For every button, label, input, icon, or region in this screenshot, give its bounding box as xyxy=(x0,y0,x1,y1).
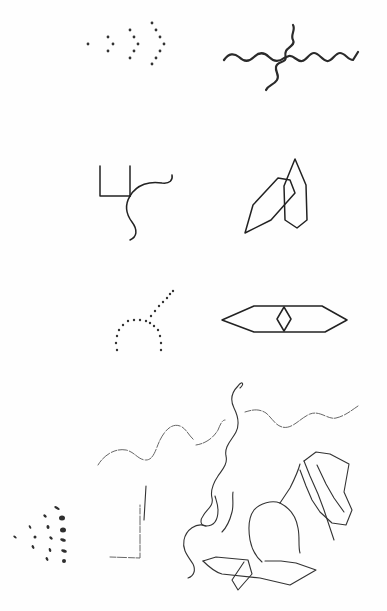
dot-mark xyxy=(159,335,161,337)
dot-mark xyxy=(149,322,151,324)
line-stroke xyxy=(98,425,194,465)
dot-mark xyxy=(129,29,132,32)
dot-mark xyxy=(163,43,166,46)
dash-mark xyxy=(13,535,17,539)
dot-mark xyxy=(137,43,140,46)
dot-mark xyxy=(145,320,147,322)
figure-sheet xyxy=(0,0,387,611)
dash-mark xyxy=(60,538,67,543)
dot-mark xyxy=(155,29,158,32)
crossed-hexagons-figure xyxy=(245,159,307,233)
dot-mark xyxy=(166,297,168,299)
dot-mark xyxy=(133,319,135,321)
dash-mark xyxy=(45,557,49,562)
dash-mark xyxy=(48,548,52,553)
dot-mark xyxy=(162,301,164,303)
line-stroke xyxy=(196,420,225,445)
scribble-scene-figure xyxy=(98,406,358,558)
dot-mark xyxy=(122,324,124,326)
dot-mark xyxy=(133,50,136,53)
dash-mark xyxy=(59,516,65,521)
dot-mark xyxy=(133,36,136,39)
dot-mark xyxy=(154,310,156,312)
dash-mark xyxy=(60,528,66,533)
dot-mark xyxy=(157,329,159,331)
dash-cluster-figure xyxy=(13,505,68,563)
dot-mark xyxy=(155,57,158,60)
dot-mark xyxy=(107,50,110,53)
line-stroke xyxy=(144,486,146,520)
dot-mark xyxy=(116,335,118,337)
dash-mark xyxy=(31,545,35,550)
dash-mark xyxy=(34,536,37,539)
line-stroke xyxy=(300,452,352,525)
line-stroke xyxy=(201,383,243,526)
dot-mark xyxy=(169,293,171,295)
dot-mark xyxy=(112,43,115,46)
line-stroke xyxy=(304,461,334,540)
wavy-cross-figure xyxy=(224,25,358,90)
dot-mark xyxy=(160,342,162,344)
line-stroke xyxy=(184,525,206,578)
dot-mark xyxy=(139,319,141,321)
dot-mark xyxy=(127,320,129,322)
line-stroke xyxy=(280,503,300,553)
line-stroke xyxy=(110,505,140,558)
dot-mark xyxy=(153,325,155,327)
polygon-outline xyxy=(277,307,291,331)
dot-mark xyxy=(151,22,154,25)
figure-canvas xyxy=(0,0,387,611)
polygon-outline xyxy=(245,178,295,233)
line-stroke xyxy=(126,196,136,240)
line-stroke xyxy=(249,502,280,562)
line-stroke xyxy=(224,52,358,61)
dot-mark xyxy=(150,315,152,317)
dot-mark xyxy=(129,57,132,60)
line-stroke xyxy=(317,465,344,512)
dot-mark xyxy=(159,50,162,53)
dash-mark xyxy=(43,514,48,518)
line-stroke xyxy=(222,492,233,532)
line-stroke xyxy=(100,166,130,196)
dot-mark xyxy=(116,349,118,351)
dot-mark xyxy=(160,349,162,351)
line-stroke xyxy=(203,561,316,585)
dot-mark xyxy=(151,63,154,66)
dot-mark xyxy=(107,36,110,39)
dash-mark xyxy=(61,549,68,554)
polygon-outline xyxy=(222,306,347,332)
dash-mark xyxy=(62,559,66,563)
dot-mark xyxy=(159,36,162,39)
dash-mark xyxy=(49,536,54,540)
dotted-arch-figure xyxy=(115,290,174,351)
fork-curve-figure xyxy=(100,166,172,240)
dash-mark xyxy=(28,525,32,529)
dot-mark xyxy=(118,329,120,331)
dot-mark xyxy=(158,305,160,307)
dot-mark xyxy=(87,43,90,46)
line-stroke xyxy=(203,557,252,590)
long-hexagon-diamond-figure xyxy=(222,306,347,332)
dash-mark xyxy=(54,505,60,510)
line-stroke xyxy=(130,175,172,196)
line-stroke xyxy=(245,406,358,427)
line-stroke xyxy=(280,464,300,503)
dash-mark xyxy=(46,525,50,529)
dot-mark xyxy=(172,290,174,292)
dot-chevrons-figure xyxy=(87,22,166,66)
dot-mark xyxy=(115,342,117,344)
